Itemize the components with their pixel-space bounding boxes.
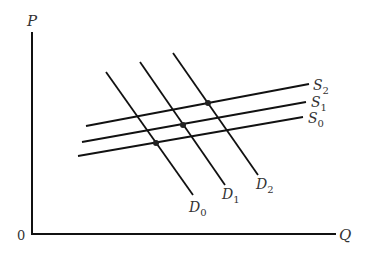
x-axis-label: Q <box>339 226 351 244</box>
origin-label: 0 <box>17 228 25 243</box>
supply-demand-diagram: P Q 0 S2 S1 S0 D0 D1 D2 <box>0 0 367 254</box>
label-d2: D2 <box>255 176 274 195</box>
equilibrium-point-0 <box>153 140 159 146</box>
demand-curve-d2 <box>173 53 258 175</box>
demand-curve-d0 <box>106 72 193 195</box>
label-d1: D1 <box>221 186 240 205</box>
label-d0: D0 <box>188 199 207 218</box>
equilibrium-point-2 <box>205 100 211 106</box>
equilibrium-point-1 <box>180 122 186 128</box>
y-axis-label: P <box>26 12 38 30</box>
